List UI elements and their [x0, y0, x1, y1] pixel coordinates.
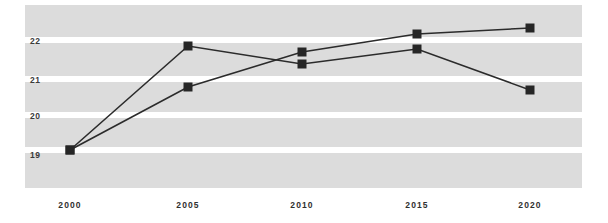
series-1-marker-2015	[413, 45, 422, 54]
x-tick-label-2005: 2005	[176, 200, 199, 210]
series-2-marker-2015	[413, 30, 422, 39]
y-tick-label-19: 19	[30, 150, 40, 160]
series-1-marker-2005	[184, 42, 193, 51]
plot-band	[25, 82, 582, 112]
x-tick-label-2020: 2020	[518, 200, 541, 210]
series-2-marker-2010	[298, 48, 307, 57]
series-2-marker-2005	[184, 83, 193, 92]
plot-band	[25, 153, 582, 188]
x-tick-label-2010: 2010	[290, 200, 313, 210]
line-chart: 22 21 20 19 2000 2005 2010 2015 202	[0, 0, 608, 223]
chart-canvas: 22 21 20 19 2000 2005 2010 2015 202	[0, 0, 608, 223]
y-tick-label-20: 20	[30, 111, 40, 121]
x-axis-tick-labels: 2000 2005 2010 2015 2020	[58, 200, 541, 210]
y-tick-label-22: 22	[30, 36, 40, 46]
x-tick-label-2000: 2000	[58, 200, 81, 210]
plot-band	[25, 118, 582, 147]
plot-background-bands	[25, 5, 582, 188]
series-1-marker-2010	[298, 60, 307, 69]
y-tick-label-21: 21	[30, 75, 40, 85]
series-2-marker-2020	[526, 24, 535, 33]
x-tick-label-2015: 2015	[405, 200, 428, 210]
series-2-marker-2000	[66, 146, 75, 155]
plot-band	[25, 5, 582, 37]
series-1-marker-2020	[526, 86, 535, 95]
